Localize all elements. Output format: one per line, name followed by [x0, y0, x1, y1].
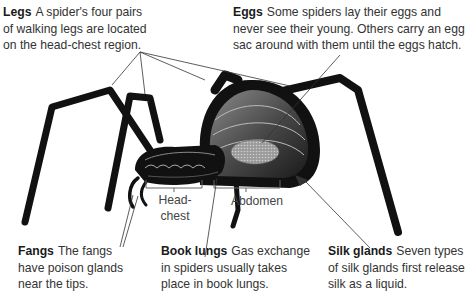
region-label-abdomen: Abdomen [222, 193, 292, 209]
callout-eggs: EggsSome spiders lay their eggs and neve… [233, 4, 467, 54]
callout-eggs-term: Eggs [233, 5, 263, 19]
callout-book-lungs-term: Book lungs [161, 244, 227, 258]
leader-legs-1 [112, 52, 140, 85]
region-label-head-chest: Head- chest [152, 192, 198, 224]
callout-silk-glands: Silk glandsSeven types of silk glands fi… [328, 243, 467, 293]
callout-silk-glands-term: Silk glands [328, 244, 392, 258]
callout-book-lungs: Book lungsGas exchange in spiders usuall… [161, 243, 311, 293]
fang-right [142, 182, 147, 205]
callout-fangs-term: Fangs [18, 244, 54, 258]
leader-legs-4 [140, 52, 290, 86]
callout-fangs: FangsThe fangs have poison glands near t… [18, 243, 148, 293]
callout-legs: LegsA spider's four pairs of walking leg… [3, 4, 203, 54]
leader-legs-2 [140, 52, 145, 94]
callout-legs-term: Legs [3, 5, 31, 19]
egg-sac [231, 140, 279, 164]
leader-silk-glands [306, 182, 370, 248]
leader-legs-3 [140, 52, 205, 80]
